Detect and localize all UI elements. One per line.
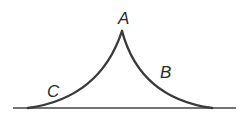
label-c: C (47, 82, 60, 101)
curve-left (28, 31, 122, 108)
label-a: A (117, 9, 129, 28)
label-b: B (160, 63, 171, 82)
cusp-diagram: A B C (0, 0, 247, 123)
